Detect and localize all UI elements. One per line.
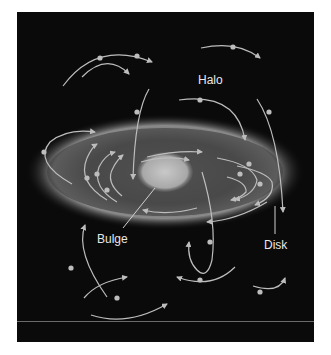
galaxy-diagram-panel: Halo Bulge Disk <box>17 12 314 342</box>
galaxy-illustration <box>17 12 314 342</box>
bottom-divider-line <box>17 321 314 322</box>
halo-label: Halo <box>198 73 223 87</box>
bulge-label: Bulge <box>97 232 128 246</box>
disk-label: Disk <box>264 238 287 252</box>
